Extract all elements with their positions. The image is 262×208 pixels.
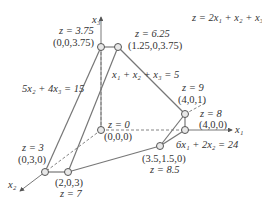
vertex-z-label: z = 3.75 bbox=[58, 25, 94, 36]
objective-function: z = 2x₁ + x₂ + x₃ bbox=[191, 12, 262, 23]
x2-axis-solid bbox=[20, 172, 45, 191]
vertex-z-label: z = 8.5 bbox=[149, 164, 180, 175]
vertex-point-label: (0,0,3.75) bbox=[53, 37, 95, 49]
x2-axis-label: x₂ bbox=[7, 179, 17, 190]
vertex-z-label: z = 0 bbox=[107, 119, 130, 130]
constraint-label: 5x₂ + 4x₃ = 15 bbox=[22, 83, 84, 94]
vertex-z-label: z = 7 bbox=[59, 188, 82, 199]
vertex-z-label: z = 3 bbox=[21, 142, 44, 153]
vertex-0-0-3.75 bbox=[98, 44, 105, 51]
vertex-2-0-3 bbox=[65, 169, 72, 176]
vertex-4-0-1 bbox=[182, 111, 189, 118]
vertex-point-label: (4,0,0) bbox=[199, 119, 227, 131]
vertex-1.25-0-3.75 bbox=[115, 44, 122, 51]
vertex-4-0-0 bbox=[182, 127, 189, 134]
vertex-point-label: (0,0,0) bbox=[104, 131, 132, 143]
vertex-z-label: z = 8 bbox=[199, 108, 222, 119]
vertex-point-label: (0,3,0) bbox=[18, 154, 46, 166]
x2-axis bbox=[45, 130, 101, 172]
constraint-label: x₁ + x₂ + x₃ = 5 bbox=[111, 69, 179, 80]
x1-axis-label: x₁ bbox=[234, 124, 243, 135]
vertex-z-label: z = 6.25 bbox=[134, 28, 170, 39]
vertex-3.5-1.5-0 bbox=[157, 143, 164, 150]
vertex-point-label: (1.25,0,3.75) bbox=[128, 40, 183, 52]
x3-axis-label: x₃ bbox=[91, 14, 101, 25]
vertex-z-label: z = 9 bbox=[181, 82, 204, 93]
lp-feasible-region-diagram: x₃ x₁ x₂ z = 2x₁ + x₂ + x₃ 5x₂ + 4x₃ = 1… bbox=[0, 0, 262, 208]
constraint-label: 6x₁ + 2x₂ = 24 bbox=[176, 139, 239, 150]
vertex-0-3-0 bbox=[42, 169, 49, 176]
vertex-point-label: (4,0,1) bbox=[178, 94, 206, 106]
